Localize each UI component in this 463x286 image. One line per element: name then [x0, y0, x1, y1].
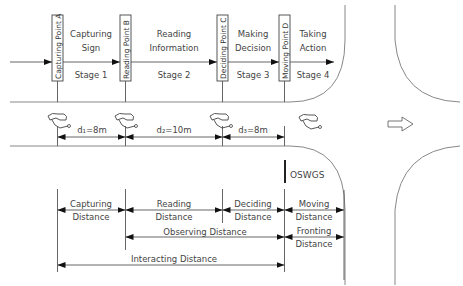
- observing-distance-label: Observing Distance: [163, 227, 246, 237]
- svg-text:Action: Action: [300, 43, 327, 53]
- gap-d3-label: d₃=8m: [238, 125, 268, 135]
- svg-text:Making: Making: [238, 29, 269, 39]
- car-icon-3: [210, 113, 233, 128]
- svg-text:Sign: Sign: [82, 43, 101, 53]
- oswgs-sign: OSWGS: [285, 160, 325, 183]
- deciding-distance-l2: Distance: [234, 212, 271, 222]
- point-a-box: Capturing Point A: [52, 13, 63, 102]
- point-a-label: Capturing Point A: [54, 13, 63, 79]
- point-d-box: Moving Point D: [279, 15, 290, 102]
- svg-text:Stage 2: Stage 2: [158, 70, 191, 80]
- point-d-label: Moving Point D: [281, 23, 290, 79]
- reading-distance-l2: Distance: [155, 212, 192, 222]
- svg-text:Stage 1: Stage 1: [75, 70, 108, 80]
- car-icon-2: [115, 113, 138, 128]
- fronting-distance-l2: Distance: [295, 239, 332, 249]
- gap-d1-label: d₁=8m: [77, 125, 107, 135]
- car-icon-4: [299, 114, 322, 129]
- gap-dimensions: d₁=8m d₂=10m d₃=8m: [58, 125, 285, 146]
- sign-distance-diagram: Capturing Point A Reading Point B Decidi…: [0, 0, 463, 286]
- fronting-distance-l1: Fronting: [297, 226, 332, 236]
- svg-text:Reading: Reading: [157, 29, 192, 39]
- point-c-box: Deciding Point C: [217, 15, 228, 102]
- point-c-label: Deciding Point C: [219, 17, 228, 79]
- reading-distance-l1: Reading: [157, 199, 192, 209]
- point-b-label: Reading Point B: [122, 20, 131, 79]
- capturing-distance-l1: Capturing: [70, 199, 112, 209]
- svg-text:Stage 3: Stage 3: [237, 70, 270, 80]
- stage-1: Capturing Sign Stage 1: [70, 29, 112, 80]
- moving-distance-l2: Distance: [295, 212, 332, 222]
- svg-text:Taking: Taking: [298, 29, 326, 39]
- oswgs-label: OSWGS: [290, 170, 325, 180]
- svg-text:Capturing: Capturing: [70, 29, 112, 39]
- deciding-distance-l1: Deciding: [234, 199, 271, 209]
- capturing-distance-l2: Distance: [72, 212, 109, 222]
- svg-text:Decision: Decision: [235, 43, 271, 53]
- distance-dimensions: Capturing Distance Reading Distance Deci…: [58, 189, 345, 280]
- stage-2: Reading Information Stage 2: [149, 29, 198, 80]
- car-icon-1: [48, 113, 71, 128]
- point-b-box: Reading Point B: [120, 15, 131, 102]
- interacting-distance-label: Interacting Distance: [131, 254, 217, 264]
- svg-text:Information: Information: [149, 43, 198, 53]
- stage-4: Taking Action Stage 4: [297, 29, 330, 80]
- moving-distance-l1: Moving: [299, 199, 330, 209]
- stage-3: Making Decision Stage 3: [235, 29, 271, 80]
- svg-text:Stage 4: Stage 4: [297, 70, 330, 80]
- gap-d2-label: d₂=10m: [156, 125, 191, 135]
- right-arrow-icon: [388, 117, 413, 131]
